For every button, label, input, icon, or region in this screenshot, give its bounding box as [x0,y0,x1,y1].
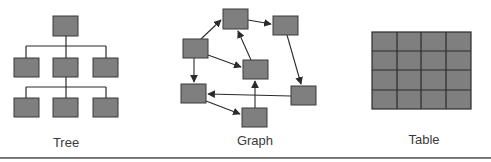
tree-label: Tree [53,135,79,150]
tree-node [14,98,39,117]
tree-diagram [14,16,118,117]
graph-diagram [181,9,316,127]
table-label: Table [408,132,439,147]
bottom-divider [0,157,491,159]
graph-node-center [243,60,268,79]
graph-label: Graph [237,133,273,148]
graph-node-top-right [273,16,298,35]
graph-node-left-lower [181,84,206,103]
tree-node [53,58,78,77]
graph-node-top [223,9,248,29]
table-diagram [372,32,471,109]
tree-node-root [53,16,78,36]
graph-node-bottom [242,108,267,127]
graph-node-left-upper [183,39,208,58]
tree-node [53,98,78,117]
tree-node [14,58,39,77]
tree-node [93,58,118,77]
tree-node [93,98,118,117]
graph-node-right-lower [291,86,316,105]
